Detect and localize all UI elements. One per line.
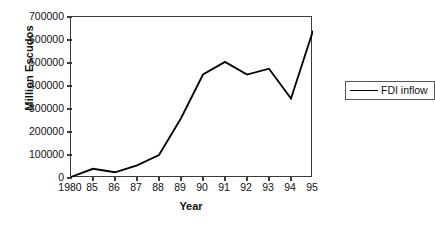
x-tick-label: 92 bbox=[240, 181, 252, 193]
y-tick-mark bbox=[67, 154, 72, 155]
y-tick-label: 400000 bbox=[16, 80, 64, 91]
y-tick-mark bbox=[67, 85, 72, 86]
x-tick-label: 1980 bbox=[58, 181, 81, 193]
y-tick-mark bbox=[67, 177, 72, 178]
y-tick-mark bbox=[67, 131, 72, 132]
x-tick-label: 94 bbox=[284, 181, 296, 193]
y-tick-label: 500000 bbox=[16, 57, 64, 68]
y-tick-mark bbox=[67, 16, 72, 17]
legend-label-fdi-inflow: FDI inflow bbox=[381, 85, 428, 96]
y-axis-tick-labels: 0100000200000300000400000500000600000700… bbox=[12, 0, 64, 230]
x-tick-label: 88 bbox=[152, 181, 164, 193]
y-tick-label: 600000 bbox=[16, 34, 64, 45]
plot-area bbox=[70, 16, 312, 177]
y-tick-mark bbox=[67, 39, 72, 40]
x-tick-label: 91 bbox=[218, 181, 230, 193]
x-tick-label: 86 bbox=[108, 181, 120, 193]
y-tick-label: 700000 bbox=[16, 11, 64, 22]
y-tick-label: 200000 bbox=[16, 126, 64, 137]
y-tick-label: 100000 bbox=[16, 149, 64, 160]
y-tick-mark bbox=[67, 62, 72, 63]
x-tick-label: 89 bbox=[174, 181, 186, 193]
series-line-fdi-inflow bbox=[71, 17, 313, 178]
chart-legend: FDI inflow bbox=[345, 81, 435, 100]
y-tick-label: 300000 bbox=[16, 103, 64, 114]
x-tick-label: 90 bbox=[196, 181, 208, 193]
x-tick-label: 93 bbox=[262, 181, 274, 193]
y-tick-mark bbox=[67, 108, 72, 109]
x-axis-tick-labels: 19808586878889909192939495 bbox=[70, 181, 312, 197]
x-axis-title: Year bbox=[70, 200, 312, 212]
x-tick-label: 95 bbox=[306, 181, 318, 193]
legend-line-swatch-icon bbox=[350, 90, 378, 91]
y-tick-label: 0 bbox=[16, 172, 64, 183]
x-tick-label: 85 bbox=[86, 181, 98, 193]
x-tick-label: 87 bbox=[130, 181, 142, 193]
